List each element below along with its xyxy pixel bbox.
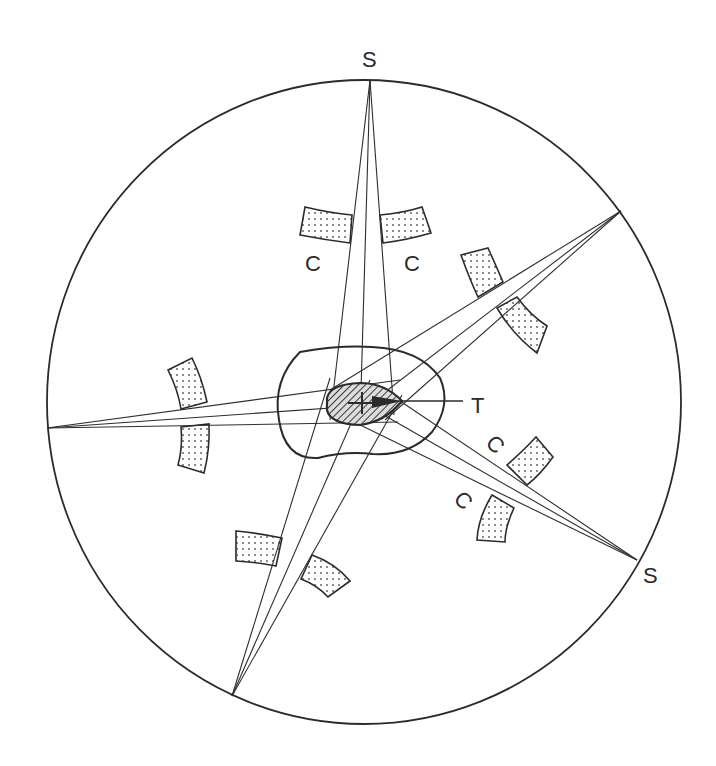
shield-block-lower-right-b: [477, 495, 514, 542]
diagram-canvas: S S T C C C C: [0, 0, 716, 766]
label-source-lower-right: S: [643, 563, 658, 588]
shield-block-top-left: [300, 207, 352, 243]
label-source-top: S: [362, 47, 377, 72]
label-critical-upper-right: C: [404, 251, 420, 276]
ray-lower-right-1: [400, 401, 637, 560]
shield-block-upper-right-b: [497, 297, 547, 353]
shield-block-upper-right-a: [461, 248, 503, 297]
label-critical-right-lower: C: [449, 486, 478, 515]
label-critical-upper-left: C: [305, 251, 321, 276]
ray-top-3: [370, 80, 394, 415]
shield-block-top-right: [380, 207, 431, 243]
diagram-svg: S S T C C C C: [0, 0, 716, 766]
shield-block-left-a: [168, 358, 207, 409]
shield-block-bottom-a: [236, 531, 282, 566]
shield-block-left-b: [178, 424, 209, 473]
label-target: T: [471, 393, 484, 418]
ray-upper-right-3: [385, 211, 621, 420]
label-critical-right-upper: C: [481, 430, 510, 459]
ray-lower-right-2: [375, 410, 637, 560]
ray-upper-right-1: [330, 211, 621, 390]
ray-top-2: [360, 80, 370, 425]
